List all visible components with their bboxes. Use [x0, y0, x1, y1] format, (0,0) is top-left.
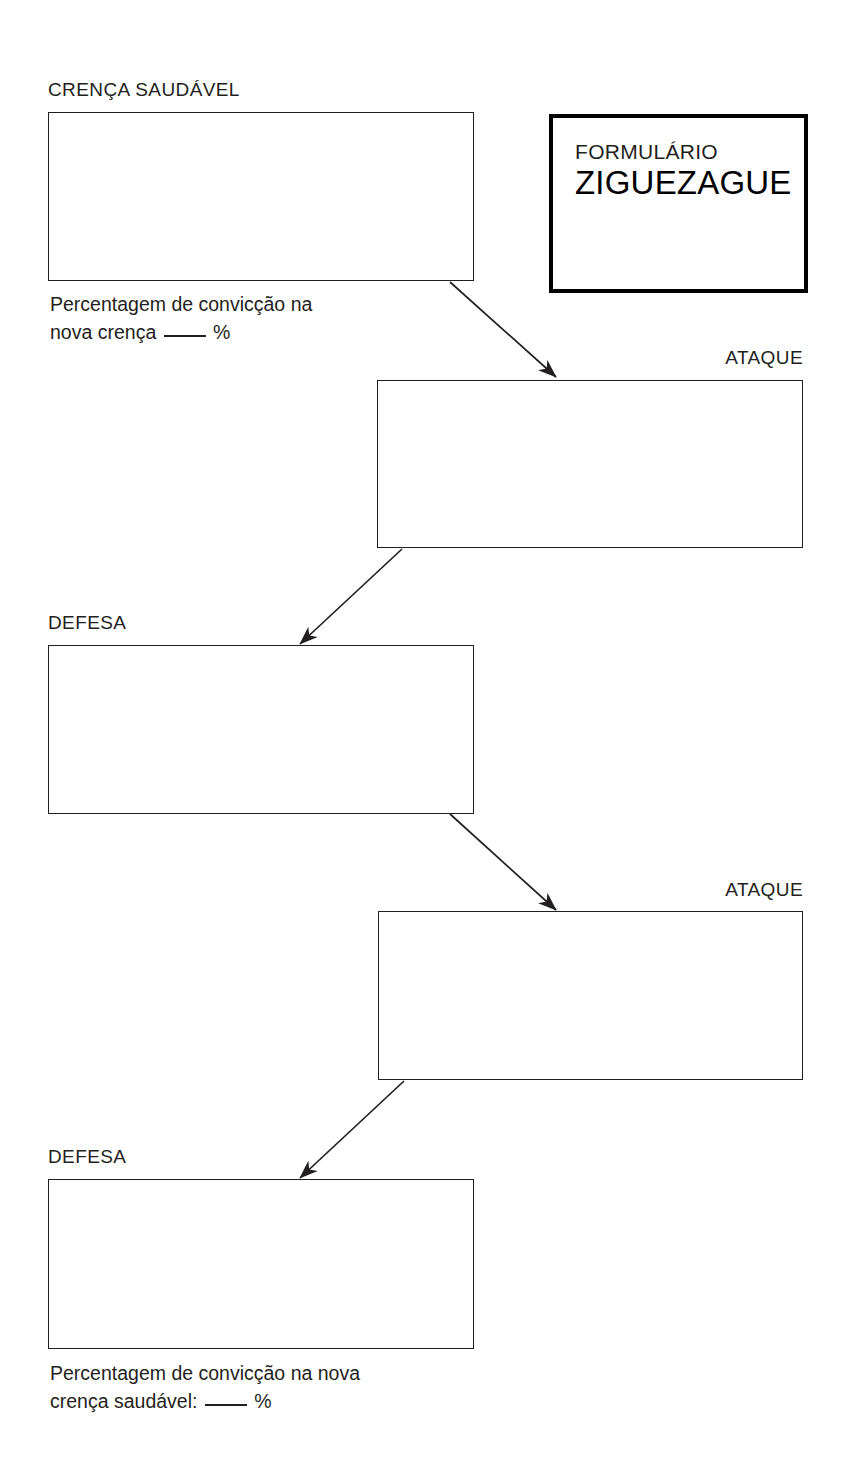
attack-box-1[interactable]: [377, 380, 803, 548]
attack-box-2[interactable]: [378, 911, 803, 1080]
caption-conviction-bottom: Percentagem de convicção na nova crença …: [50, 1360, 410, 1415]
caption-conviction-top: Percentagem de convicção na nova crença …: [50, 291, 380, 346]
caption-top-line2-suffix: %: [213, 321, 230, 343]
worksheet-page: CRENÇA SAUDÁVEL Percentagem de convicção…: [0, 0, 851, 1474]
label-attack-2: ATAQUE: [603, 880, 803, 899]
caption-top-line2-prefix: nova crença: [50, 321, 156, 343]
defense-box-1[interactable]: [48, 645, 474, 814]
arrow-belief-to-attack1: [450, 282, 556, 377]
label-attack-1: ATAQUE: [603, 348, 803, 367]
arrow-defense1-to-attack2: [450, 814, 556, 910]
title-card: FORMULÁRIO ZIGUEZAGUE: [549, 114, 808, 293]
label-healthy-belief: CRENÇA SAUDÁVEL: [48, 80, 240, 99]
label-defense-2: DEFESA: [48, 1147, 126, 1166]
arrow-attack1-to-defense1: [300, 549, 402, 644]
caption-bottom-line1: Percentagem de convicção na nova: [50, 1362, 360, 1384]
title-card-line2: ZIGUEZAGUE: [575, 165, 804, 202]
label-defense-1: DEFESA: [48, 613, 126, 632]
caption-top-line1: Percentagem de convicção na: [50, 293, 312, 315]
conviction-percent-blank-top[interactable]: [164, 335, 206, 337]
conviction-percent-blank-bottom[interactable]: [205, 1404, 247, 1406]
healthy-belief-box[interactable]: [48, 112, 474, 281]
title-card-line1: FORMULÁRIO: [575, 140, 804, 163]
caption-bottom-line2-suffix: %: [254, 1390, 271, 1412]
arrow-attack2-to-defense2: [300, 1081, 404, 1178]
defense-box-2[interactable]: [48, 1179, 474, 1349]
caption-bottom-line2-prefix: crença saudável:: [50, 1390, 197, 1412]
